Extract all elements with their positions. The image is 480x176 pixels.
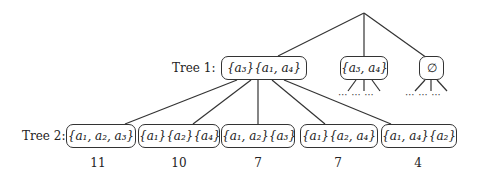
count-5: 4 (398, 156, 438, 170)
tree2-node-a1a4-a2: {a₁, a₄}{a₂} (381, 124, 457, 148)
count-2: 10 (159, 156, 199, 170)
tree1-a3a4-node: {a₃, a₄} (340, 56, 388, 80)
tree1-label: Tree 1: (172, 57, 215, 79)
tree2-node-a1a2-a3: {a₁, a₂}{a₃} (221, 124, 295, 148)
tree1-main-node: {a₃}{a₁, a₄} (221, 56, 307, 80)
tree2-node-a1-a2-a4: {a₁}{a₂}{a₄} (138, 124, 220, 148)
count-3: 7 (238, 156, 278, 170)
count-1: 11 (78, 156, 118, 170)
svg-text:⋯ ⋯ ⋯: ⋯ ⋯ ⋯ (405, 89, 441, 100)
tree1-empty-set-node: ∅ (419, 56, 444, 80)
tree2-node-a1-a2a4: {a₁}{a₂, a₄} (300, 124, 378, 148)
tree-edges: ⋯ ⋯ ⋯ ⋯ ⋯ ⋯ (0, 0, 480, 176)
tree2-node-a1a2a3: {a₁, a₂, a₃} (66, 124, 136, 148)
tree2-label: Tree 2: (22, 125, 65, 147)
count-4: 7 (318, 156, 358, 170)
svg-text:⋯ ⋯ ⋯: ⋯ ⋯ ⋯ (338, 89, 374, 100)
